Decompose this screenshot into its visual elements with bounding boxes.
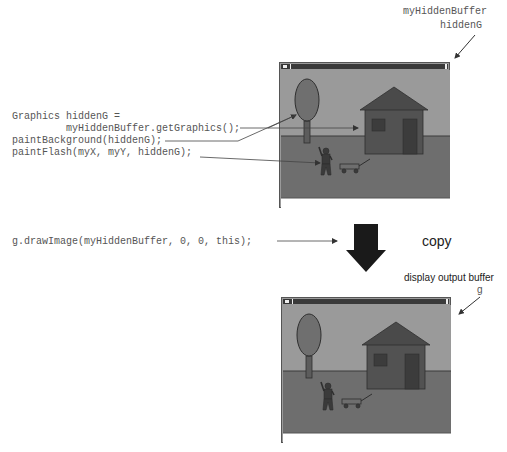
arrow-to-person [200,157,320,163]
arrow-to-tree [240,115,296,128]
copy-down-arrow-icon [346,224,386,272]
connector-arrows [0,0,507,452]
arrow-to-hidden-buffer [455,35,475,58]
arrow-to-display-buffer [459,297,480,314]
